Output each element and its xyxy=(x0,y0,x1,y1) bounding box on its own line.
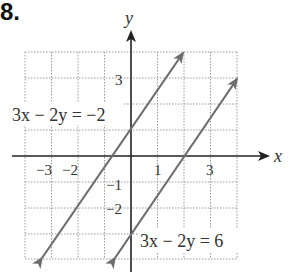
y-tick-neg1: −1 xyxy=(106,177,122,193)
x-tick-neg2: −2 xyxy=(62,162,78,178)
equation-label-1: 3x − 2y = −2 xyxy=(12,105,105,125)
x-axis-label: x xyxy=(273,146,282,166)
x-tick-1: 1 xyxy=(154,162,162,178)
equation-label-2: 3x − 2y = 6 xyxy=(140,231,223,251)
y-tick-neg2: −2 xyxy=(106,201,122,217)
coordinate-graph: y x −3 −2 1 3 3 −1 −2 3x − 2y = −2 3x − … xyxy=(0,0,288,273)
y-axis-label: y xyxy=(123,8,133,28)
x-tick-neg3: −3 xyxy=(36,162,52,178)
y-tick-3: 3 xyxy=(115,72,123,88)
x-tick-3: 3 xyxy=(206,162,214,178)
